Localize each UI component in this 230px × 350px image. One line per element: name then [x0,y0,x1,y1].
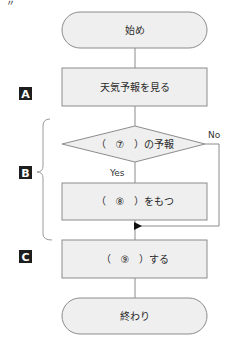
decision-no-label: No [208,130,221,140]
end-label: 終わり [120,310,150,322]
section-b-bracket [37,119,52,240]
header-mark: 〃 [6,0,15,8]
tag-b-label: B [21,167,29,180]
step-c-label: （ ⑨ ）する [101,254,170,265]
step-b-label: （ ⑧ ）をもつ [96,196,175,207]
tag-c-label: C [21,251,29,264]
tag-a-label: A [21,88,30,101]
flowchart: 〃 始め 天気予報を見る （ ⑦ ）の予報 No Yes （ ⑧ ）をもつ （ … [0,0,230,350]
start-label: 始め [125,24,145,36]
decision-label: （ ⑦ ）の予報 [96,139,175,150]
decision-yes-label: Yes [109,168,125,178]
step-a-label: 天気予報を見る [100,81,170,93]
